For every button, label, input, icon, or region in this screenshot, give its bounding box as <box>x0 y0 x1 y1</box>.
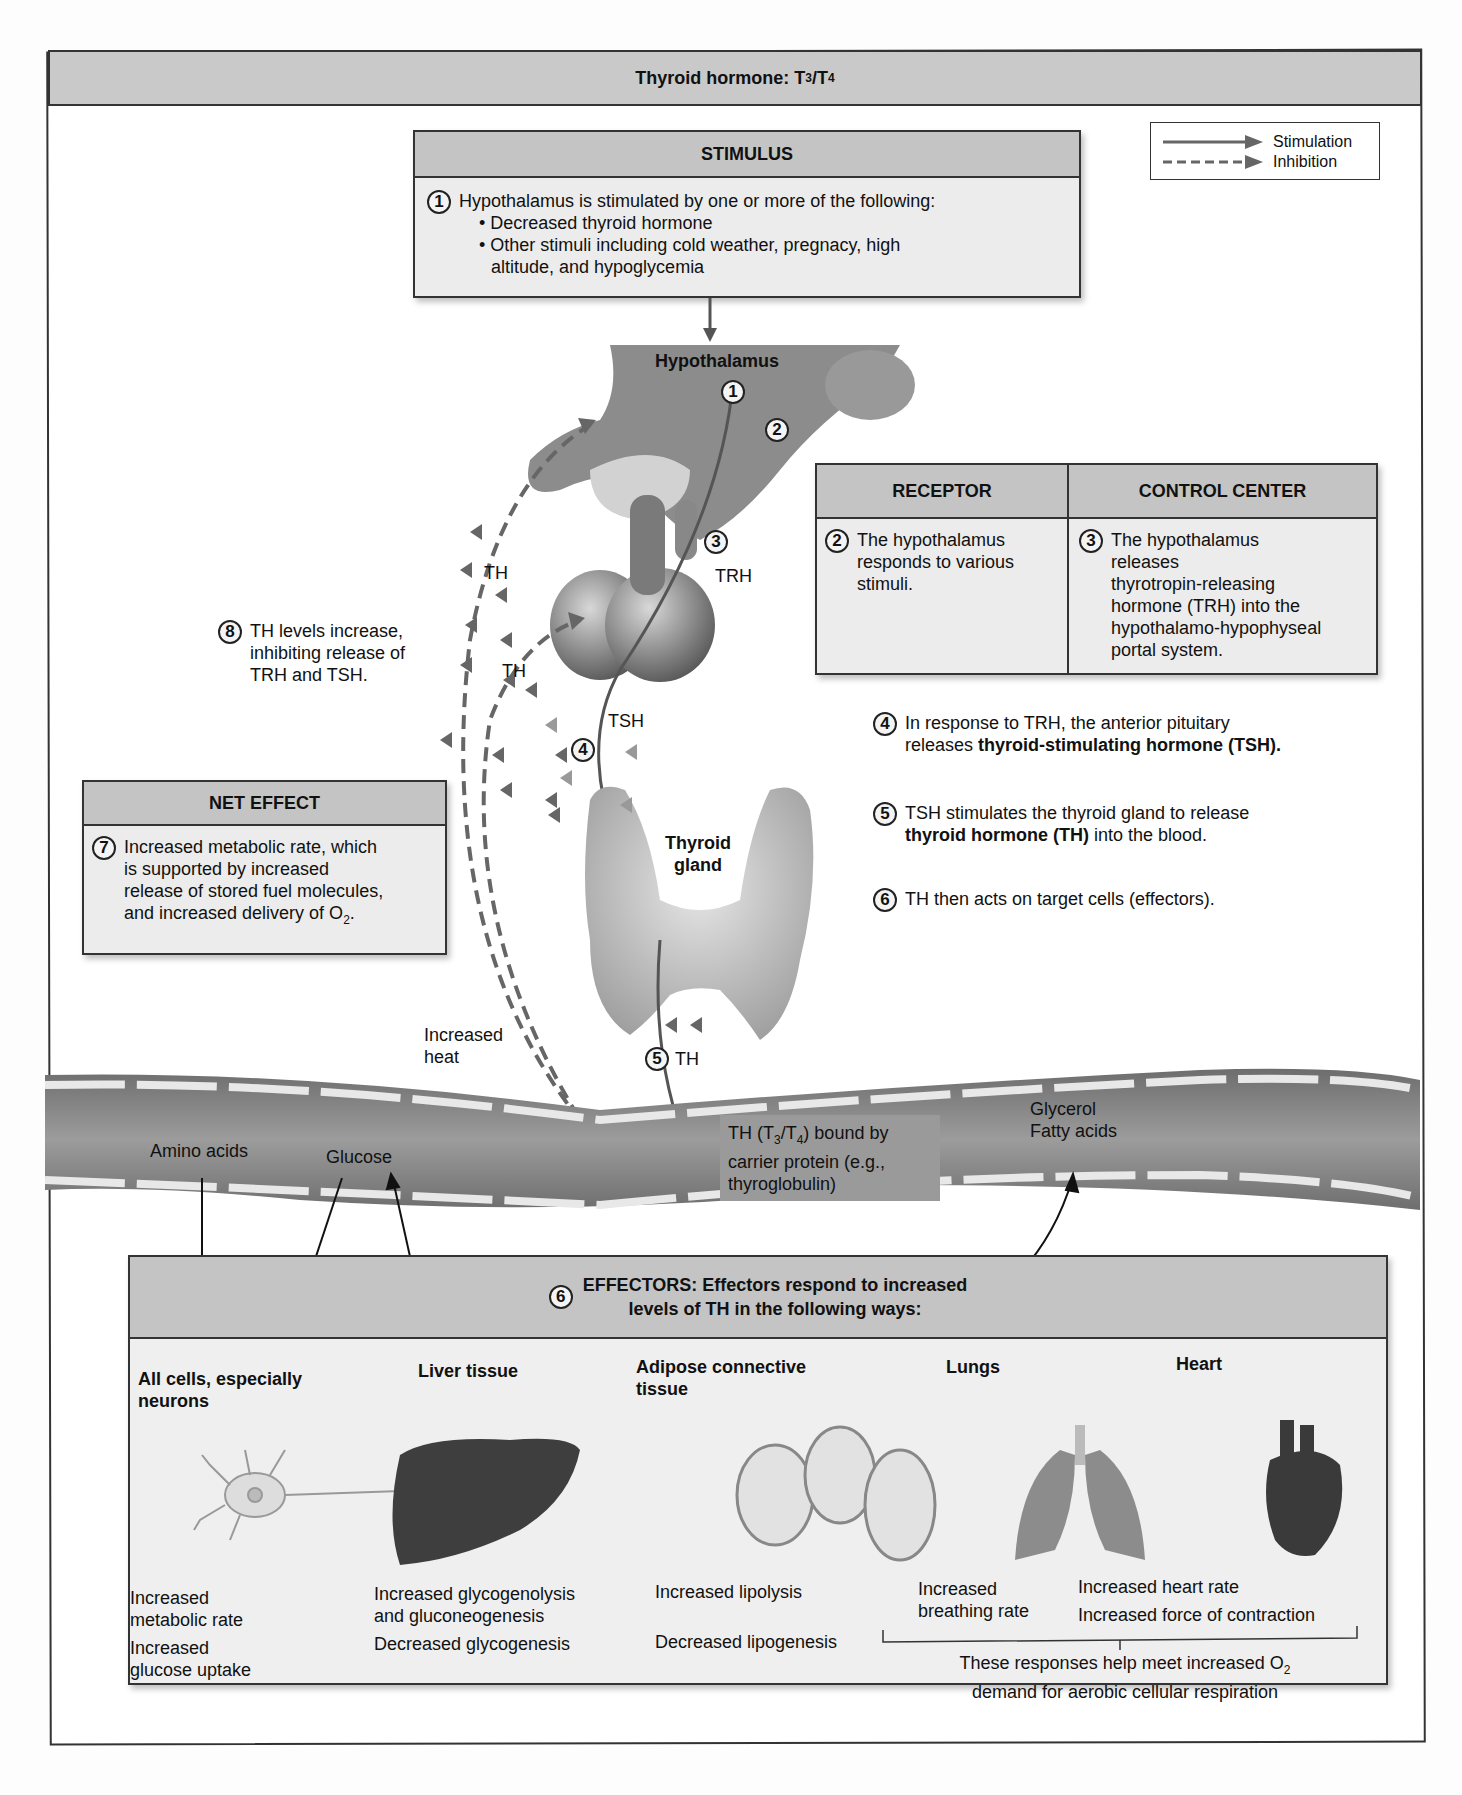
step-8: 8 TH levels increase, inhibiting release… <box>218 620 405 686</box>
label-th-lower: TH <box>502 660 526 682</box>
carrier-line3: thyroglobulin) <box>728 1173 888 1195</box>
adipose-effect-2: Decreased lipogenesis <box>655 1631 837 1653</box>
net-effect-heading: NET EFFECT <box>84 782 445 826</box>
effects-neurons: Increased metabolic rate Increased gluco… <box>130 1587 251 1681</box>
neuron-effect-2b: glucose uptake <box>130 1659 251 1681</box>
effectors-step-6-badge: 6 <box>549 1285 573 1309</box>
label-carrier-protein: TH (T3/T4) bound by carrier protein (e.g… <box>728 1122 888 1195</box>
lungs-icon <box>1015 1425 1145 1560</box>
label-glycerol-fatty-acids: Glycerol Fatty acids <box>1030 1098 1117 1142</box>
step-5-line1: TSH stimulates the thyroid gland to rele… <box>905 802 1249 824</box>
net-effect-box: NET EFFECT 7 Increased metabolic rate, w… <box>82 780 447 955</box>
summary-bracket <box>880 1612 1360 1652</box>
control-line-1: The hypothalamus <box>1111 529 1321 551</box>
effector-2-title2: tissue <box>636 1378 806 1400</box>
net-effect-line-4: and increased delivery of O <box>124 903 343 923</box>
effector-title-neurons: All cells, especially neurons <box>138 1368 302 1412</box>
carrier-line2: carrier protein (e.g., <box>728 1151 888 1173</box>
liver-effect-2: Decreased glycogenesis <box>374 1633 575 1655</box>
label-th-upper: TH <box>484 562 508 584</box>
carrier-sub-3: 3 <box>774 1133 781 1147</box>
control-center-panel: CONTROL CENTER 3 The hypothalamus releas… <box>1069 465 1376 673</box>
label-tsh: TSH <box>608 710 644 732</box>
step-8-badge: 8 <box>218 620 242 644</box>
effector-0-title2: neurons <box>138 1390 302 1412</box>
pituitary-shape <box>550 495 715 682</box>
net-effect-line-1: Increased metabolic rate, which <box>124 836 383 858</box>
step-6: 6 TH then acts on target cells (effector… <box>873 888 1215 912</box>
label-glycerol: Glycerol <box>1030 1098 1117 1120</box>
liver-effect-1a: Increased glycogenolysis <box>374 1583 575 1605</box>
effector-0-title1: All cells, especially <box>138 1368 302 1390</box>
step-2-badge: 2 <box>825 529 849 553</box>
anatomy-circle-5: 5 <box>645 1047 669 1071</box>
control-line-4: hormone (TRH) into the <box>1111 595 1321 617</box>
carrier-text-c: ) bound by <box>803 1123 888 1143</box>
label-amino-acids: Amino acids <box>150 1140 248 1162</box>
step-4: 4 In response to TRH, the anterior pitui… <box>873 712 1281 756</box>
effectors-heading-line2: levels of TH in the following ways: <box>583 1297 968 1321</box>
label-thyroid-gland: Thyroid gland <box>665 832 731 876</box>
liver-effect-1b: and gluconeogenesis <box>374 1605 575 1627</box>
feedback-line-1: TH levels increase, <box>250 620 405 642</box>
step-6-line1: TH then acts on target cells (effectors)… <box>905 888 1215 912</box>
effectors-heading-line1: EFFECTORS: Effectors respond to increase… <box>583 1273 968 1297</box>
receptor-line-1: The hypothalamus <box>857 529 1014 551</box>
anatomy-circle-4: 4 <box>571 738 595 762</box>
step-4-badge: 4 <box>873 712 897 736</box>
net-effect-end: . <box>350 903 355 923</box>
summary-line2: demand for aerobic cellular respiration <box>925 1681 1325 1703</box>
net-effect-line-2: is supported by increased <box>124 858 383 880</box>
label-hypothalamus: Hypothalamus <box>655 350 779 372</box>
control-line-5: hypothalamo-hypophyseal <box>1111 617 1321 639</box>
step-6-badge: 6 <box>873 888 897 912</box>
net-effect-line-3: release of stored fuel molecules, <box>124 880 383 902</box>
receptor-line-3: stimuli. <box>857 573 1014 595</box>
increased-heat-line2: heat <box>424 1046 503 1068</box>
effector-title-adipose: Adipose connective tissue <box>636 1356 806 1400</box>
effector-title-lungs: Lungs <box>946 1356 1000 1378</box>
carrier-text-b: /T <box>781 1123 797 1143</box>
feedback-line-3: TRH and TSH. <box>250 664 405 686</box>
label-thyroid-line2: gland <box>665 854 731 876</box>
effects-liver: Increased glycogenolysis and gluconeogen… <box>374 1583 575 1655</box>
step-5-line2-bold: thyroid hormone (TH) <box>905 825 1089 845</box>
receptor-control-box: RECEPTOR 2 The hypothalamus responds to … <box>815 463 1378 675</box>
lungs-effect-1a: Increased <box>918 1578 1029 1600</box>
carrier-text-a: TH (T <box>728 1123 774 1143</box>
liver-icon <box>393 1439 581 1565</box>
effects-adipose: Increased lipolysis Decreased lipogenesi… <box>655 1581 837 1653</box>
label-fatty-acids: Fatty acids <box>1030 1120 1117 1142</box>
control-center-heading: CONTROL CENTER <box>1069 465 1376 519</box>
step-5: 5 TSH stimulates the thyroid gland to re… <box>873 802 1249 846</box>
adipose-cells-icon <box>737 1427 935 1560</box>
effector-title-liver: Liver tissue <box>418 1360 518 1382</box>
step-3-badge: 3 <box>1079 529 1103 553</box>
neuron-effect-2a: Increased <box>130 1637 251 1659</box>
label-trh: TRH <box>715 565 752 587</box>
summary-line1: These responses help meet increased O <box>960 1653 1284 1673</box>
effectors-summary: These responses help meet increased O2 d… <box>925 1652 1325 1703</box>
anatomy-circle-3: 3 <box>704 530 728 554</box>
label-thyroid-line1: Thyroid <box>665 832 731 854</box>
summary-sub-2: 2 <box>1284 1663 1291 1677</box>
neuron-effect-1b: metabolic rate <box>130 1609 251 1631</box>
control-line-6: portal system. <box>1111 639 1321 661</box>
thyroid-gland-shape <box>585 787 813 1040</box>
step-5-line2-post: into the blood. <box>1089 825 1207 845</box>
effector-illustrations <box>100 1420 1380 1570</box>
effector-title-heart: Heart <box>1176 1353 1222 1375</box>
label-glucose: Glucose <box>326 1146 392 1168</box>
control-line-2: releases <box>1111 551 1321 573</box>
neuron-effect-1a: Increased <box>130 1587 251 1609</box>
step-4-line2-pre: releases <box>905 735 978 755</box>
net-effect-sub-2: 2 <box>343 913 350 927</box>
heart-effect-1: Increased heart rate <box>1078 1576 1315 1598</box>
receptor-heading: RECEPTOR <box>817 465 1067 519</box>
anatomy-circle-2: 2 <box>765 418 789 442</box>
control-line-3: thyrotropin-releasing <box>1111 573 1321 595</box>
heart-icon <box>1266 1420 1342 1556</box>
receptor-line-2: responds to various <box>857 551 1014 573</box>
effector-2-title1: Adipose connective <box>636 1356 806 1378</box>
step-7-badge: 7 <box>92 836 116 860</box>
